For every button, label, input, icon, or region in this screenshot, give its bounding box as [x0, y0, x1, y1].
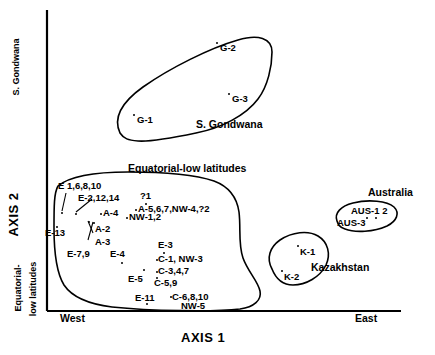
data-point-label: E-4	[110, 249, 125, 259]
x-axis-east-label: East	[355, 312, 377, 324]
x-axis-title: AXIS 1	[181, 330, 225, 345]
leader-line-e1	[62, 193, 66, 211]
data-point-label: G-2	[220, 43, 236, 53]
data-point-label: NW-5	[181, 301, 205, 311]
figure-container: AXIS 1 AXIS 2 West East S. Gondwana Equa…	[0, 0, 435, 355]
data-point-label: AUS-3	[337, 218, 366, 228]
region-label-gondwana: S. Gondwana	[196, 118, 263, 130]
region-label-equatorial: Equatorial-low latitudes	[128, 162, 246, 174]
data-point-label: E-11	[135, 293, 155, 303]
data-point-label: AUS-1 2	[351, 206, 387, 216]
data-point-label: C-3,4,7	[158, 266, 189, 276]
data-point-label: G-1	[137, 115, 153, 125]
data-point-label: E-7,9	[67, 249, 90, 259]
region-label-australia: Australia	[368, 186, 413, 198]
data-point-label: K-2	[284, 272, 299, 282]
data-point-label: C-1, NW-3	[158, 254, 203, 264]
region-label-kazakhstan: Kazakhstan	[311, 261, 369, 273]
x-axis-west-label: West	[60, 312, 85, 324]
data-point-label: A-3	[95, 237, 110, 247]
data-point-label: K-1	[300, 247, 315, 257]
scatter-plot-canvas	[0, 0, 435, 355]
y-axis-gondwana-label: S. Gondwana	[11, 38, 21, 95]
data-point-label: E-13	[45, 228, 65, 238]
data-point-label: E 1,6,8,10	[58, 181, 101, 191]
data-point-label: A-2	[95, 224, 110, 234]
data-point-label: ?1	[140, 191, 151, 201]
data-point-label: E-2,12,14	[78, 193, 119, 203]
data-point-label: NW-1,2	[129, 212, 161, 222]
y-axis-equatorial-label-line2: low latitudes	[28, 262, 38, 317]
data-point-label: E-5	[128, 274, 143, 284]
data-point-label: A-4	[103, 208, 118, 218]
data-point-label: C-5,9	[154, 278, 177, 288]
data-point-label: G-3	[232, 94, 248, 104]
y-axis-title: AXIS 2	[6, 192, 21, 236]
data-point-label: E-3	[158, 240, 173, 250]
y-axis-equatorial-label-line1: Equatorial-	[13, 264, 23, 311]
